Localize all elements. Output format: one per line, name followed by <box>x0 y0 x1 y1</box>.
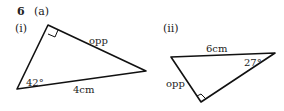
hypotenuse-label-ii: 6cm <box>206 43 228 54</box>
diagram-canvas: 42° 4cm opp 6cm 27° opp <box>0 0 284 111</box>
triangle-i: 42° 4cm opp <box>17 25 146 95</box>
angle-label-i: 42° <box>26 77 44 88</box>
angle-label-ii: 27° <box>244 57 262 68</box>
opp-label-i: opp <box>89 35 108 46</box>
hypotenuse-label-i: 4cm <box>73 84 95 95</box>
right-angle-marker-i <box>48 30 58 37</box>
triangle-ii: 6cm 27° opp <box>166 43 275 102</box>
opp-label-ii: opp <box>166 78 185 89</box>
